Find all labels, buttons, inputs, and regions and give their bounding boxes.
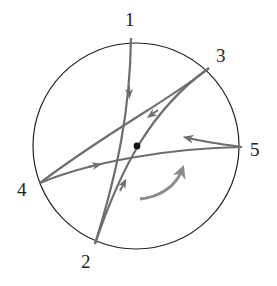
arrow-2-to-3-icon [120,183,124,191]
point-label-2: 2 [81,252,91,271]
point-label-4: 4 [17,180,27,199]
path-4-to-5 [40,147,242,183]
center-fixed-point [134,143,141,150]
path-3-to-4 [40,68,209,183]
point-label-1: 1 [125,10,135,29]
rotation-arrow-icon [140,170,182,199]
arrow-3-to-4-icon [151,110,158,115]
diagram-canvas [0,0,277,286]
arrow-4-to-5-icon [88,165,97,167]
path-2-to-3 [95,68,209,244]
point-label-3: 3 [216,46,226,65]
point-label-5: 5 [250,140,260,159]
path-5-inward [188,138,242,147]
